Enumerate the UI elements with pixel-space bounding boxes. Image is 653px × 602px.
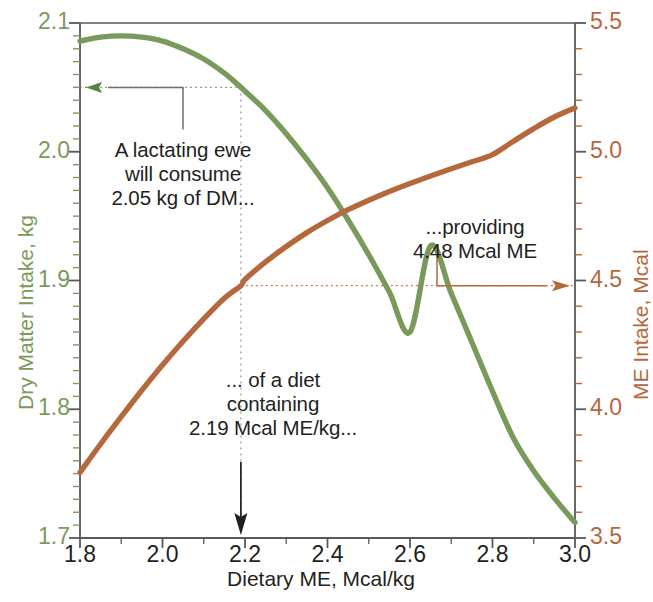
annotation-me-note: ...providing 4.48 Mcal ME: [380, 215, 570, 263]
x-tick-label-2.6: 2.6: [370, 541, 450, 568]
left-tick-label-1.9: 1.9: [8, 266, 70, 293]
left-tick-label-1.8: 1.8: [8, 394, 70, 421]
left-tick-label-2.0: 2.0: [8, 137, 70, 164]
right-tick-label-5.0: 5.0: [590, 137, 650, 164]
x-tick-label-2.8: 2.8: [453, 541, 533, 568]
data-curves: [80, 36, 575, 523]
x-tick-label-2.0: 2.0: [123, 541, 203, 568]
right-tick-label-4.5: 4.5: [590, 266, 650, 293]
left-axis-ticks: [69, 23, 80, 538]
left-axis-title: Dry Matter Intake, kg: [14, 215, 38, 410]
x-axis-title: Dietary ME, Mcal/kg: [0, 567, 642, 591]
plot-frame: [80, 23, 575, 538]
annotation-diet-note: ... of a diet containing 2.19 Mcal ME/kg…: [143, 368, 403, 439]
x-tick-label-1.8: 1.8: [40, 541, 120, 568]
x-tick-label-2.2: 2.2: [205, 541, 285, 568]
right-tick-label-5.5: 5.5: [590, 8, 650, 35]
x-tick-label-3.0: 3.0: [535, 541, 615, 568]
left-tick-label-2.1: 2.1: [8, 8, 70, 35]
right-tick-label-4.0: 4.0: [590, 394, 650, 421]
x-tick-label-2.4: 2.4: [288, 541, 368, 568]
right-axis-ticks: [575, 23, 586, 538]
annotation-dmi-note: A lactating ewe will consume 2.05 kg of …: [73, 138, 293, 209]
